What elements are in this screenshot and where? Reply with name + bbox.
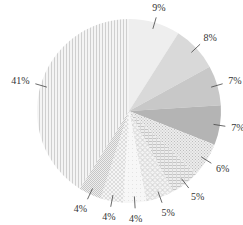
slice-label: 7% <box>231 122 243 133</box>
slice-label: 8% <box>203 32 216 43</box>
slice-label: 4% <box>102 211 115 222</box>
slice-label: 5% <box>161 207 174 218</box>
slice-label: 7% <box>228 75 241 86</box>
slice-label: 6% <box>216 163 229 174</box>
slice-label: 4% <box>129 213 142 224</box>
pie-slices <box>37 19 221 203</box>
slice-label: 41% <box>11 75 29 86</box>
slice-label: 5% <box>191 191 204 202</box>
slice-label: 4% <box>74 203 87 214</box>
pie-chart: 9%8%7%7%6%5%5%4%4%4%41% <box>0 0 243 225</box>
slice-label: 9% <box>152 2 165 13</box>
